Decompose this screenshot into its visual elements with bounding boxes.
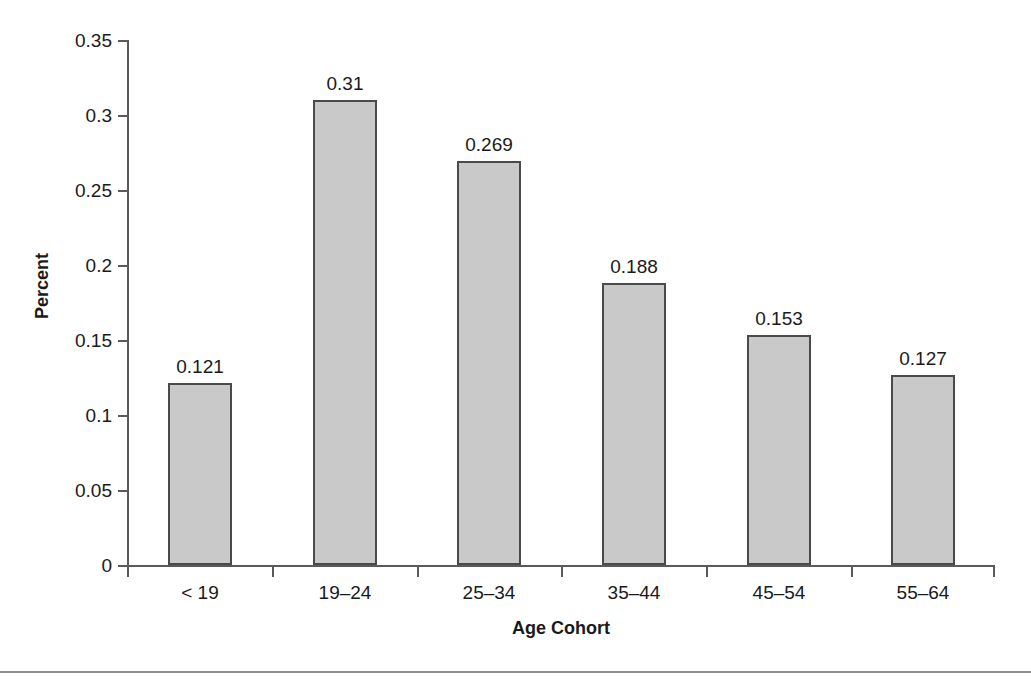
bar-value-2: 0.269: [429, 135, 549, 154]
x-cat-label-3: 35–44: [574, 583, 694, 602]
bar-value-1: 0.31: [285, 74, 405, 93]
x-tick-5: [851, 567, 853, 577]
x-cat-label-0: < 19: [140, 583, 260, 602]
plot-area: [127, 40, 995, 565]
y-tick-label-5: 0.25: [75, 181, 112, 200]
y-tick-label-4: 0.2: [86, 256, 112, 275]
x-tick-2: [417, 567, 419, 577]
y-tick-2: [118, 415, 127, 417]
x-tick-4: [706, 567, 708, 577]
bar-value-5: 0.127: [863, 349, 983, 368]
bar-3[interactable]: [602, 283, 666, 565]
bar-value-0: 0.121: [140, 357, 260, 376]
bar-0[interactable]: [168, 383, 232, 565]
x-cat-label-2: 25–34: [429, 583, 549, 602]
bar-chart-figure: 0 0.05 0.1 0.15 0.2 0.25 0.3 0.35: [0, 0, 1031, 684]
y-tick-5: [118, 190, 127, 192]
y-axis-title: Percent: [33, 241, 51, 331]
bar-value-4: 0.153: [719, 309, 839, 328]
x-axis-title: Age Cohort: [127, 619, 995, 637]
y-axis-line: [127, 40, 129, 567]
x-tick-6: [993, 567, 995, 577]
x-cat-label-4: 45–54: [719, 583, 839, 602]
bar-2[interactable]: [457, 161, 521, 565]
y-tick-label-1: 0.05: [75, 481, 112, 500]
bar-5[interactable]: [891, 375, 955, 565]
x-tick-3: [561, 567, 563, 577]
x-cat-label-1: 19–24: [285, 583, 405, 602]
y-tick-label-7: 0.35: [75, 31, 112, 50]
x-cat-label-5: 55–64: [863, 583, 983, 602]
y-tick-0: [118, 565, 127, 567]
y-tick-label-2: 0.1: [86, 406, 112, 425]
y-tick-3: [118, 340, 127, 342]
bottom-divider-rule: [0, 671, 1031, 673]
y-tick-7: [118, 40, 127, 42]
x-tick-1: [272, 567, 274, 577]
y-tick-4: [118, 265, 127, 267]
y-tick-label-6: 0.3: [86, 106, 112, 125]
y-tick-label-0: 0: [101, 556, 112, 575]
bar-value-3: 0.188: [574, 257, 694, 276]
y-tick-1: [118, 490, 127, 492]
bar-4[interactable]: [747, 335, 811, 565]
x-tick-0: [127, 567, 129, 577]
y-tick-6: [118, 115, 127, 117]
y-tick-label-3: 0.15: [75, 331, 112, 350]
bar-1[interactable]: [313, 100, 377, 565]
